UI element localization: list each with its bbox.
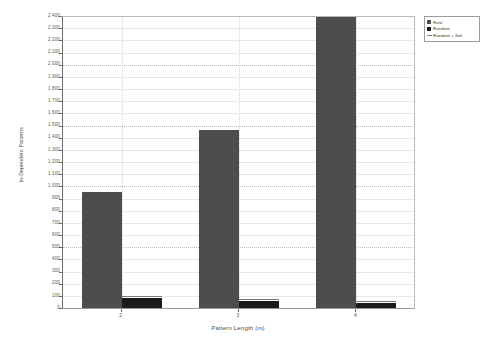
x-axis-tick-label: 4 xyxy=(340,312,370,318)
legend-color-swatch-icon xyxy=(427,20,431,24)
y-axis-tick-label: 1 300 xyxy=(30,148,60,153)
x-axis-title-label: Pattern Length (m) xyxy=(211,325,265,331)
y-axis-tick-label: 500 xyxy=(30,245,60,250)
legend-item[interactable]: Real xyxy=(427,19,477,25)
y-axis-tick-label: 900 xyxy=(30,196,60,201)
y-axis-tick-label: 2 300 xyxy=(30,26,60,31)
y-axis-tick-label: 100 xyxy=(30,294,60,299)
x-axis-tick-label: 3 xyxy=(223,312,253,318)
error-line-marker xyxy=(239,299,279,300)
chart-container: In-Dependent Patterns 010020030040050060… xyxy=(0,0,492,346)
legend-item[interactable]: Random xyxy=(427,26,477,32)
bar xyxy=(316,17,356,308)
y-axis-tick-label: 1 700 xyxy=(30,99,60,104)
plot-area xyxy=(62,16,415,309)
y-axis-tick-label: 400 xyxy=(30,257,60,262)
legend-color-swatch-icon xyxy=(427,27,431,31)
y-axis-tick-label: 200 xyxy=(30,281,60,286)
y-axis-title: In-Dependent Patterns xyxy=(14,0,28,310)
plot-frame-right-border xyxy=(414,16,415,309)
bar xyxy=(122,298,162,308)
y-axis-tick-label: 1 800 xyxy=(30,87,60,92)
plot-frame-top-border xyxy=(62,16,415,17)
x-axis-tick-mark xyxy=(121,309,122,312)
y-axis-tick-label: 1 000 xyxy=(30,184,60,189)
bar xyxy=(239,301,279,308)
legend-item-label: Real xyxy=(433,20,442,25)
chart-legend: RealRandomRandom + Std xyxy=(424,16,480,42)
y-axis-tick-label: 2 400 xyxy=(30,14,60,19)
legend-item[interactable]: Random + Std xyxy=(427,32,477,38)
bar xyxy=(356,303,396,308)
x-axis-title: Pattern Length (m) xyxy=(62,325,414,331)
y-axis-tick-label: 300 xyxy=(30,269,60,274)
bar xyxy=(82,192,122,308)
error-line-marker xyxy=(122,296,162,297)
y-axis-tick-label: 1 500 xyxy=(30,123,60,128)
bar xyxy=(199,130,239,308)
x-axis-tick-mark xyxy=(355,309,356,312)
legend-item-label: Random xyxy=(433,26,450,31)
y-axis-tick-label: 1 900 xyxy=(30,75,60,80)
y-axis-tick-label: 2 000 xyxy=(30,62,60,67)
y-axis-title-label: In-Dependent Patterns xyxy=(18,127,24,182)
y-axis-tick-label: 600 xyxy=(30,233,60,238)
y-axis-tick-label: 1 600 xyxy=(30,111,60,116)
y-axis-tick-label: 1 100 xyxy=(30,172,60,177)
legend-item-label: Random + Std xyxy=(433,33,462,38)
vertical-gridline xyxy=(356,16,357,308)
y-axis-tick-label: 800 xyxy=(30,208,60,213)
x-axis-tick-label: 2 xyxy=(106,312,136,318)
y-axis-tick-label: 2 200 xyxy=(30,38,60,43)
x-axis-tick-mark xyxy=(238,309,239,312)
y-axis-tick-label: 1 400 xyxy=(30,135,60,140)
y-axis-tick-labels: 01002003004005006007008009001 0001 1001 … xyxy=(28,16,60,308)
y-axis-tick-label: 1 200 xyxy=(30,160,60,165)
error-line-marker xyxy=(356,301,396,302)
vertical-gridline xyxy=(122,16,123,308)
y-axis-tick-label: 0 xyxy=(30,306,60,311)
y-axis-tick-label: 700 xyxy=(30,221,60,226)
y-axis-tick-label: 2 100 xyxy=(30,50,60,55)
vertical-gridline xyxy=(239,16,240,308)
legend-line-swatch-icon xyxy=(427,35,432,36)
